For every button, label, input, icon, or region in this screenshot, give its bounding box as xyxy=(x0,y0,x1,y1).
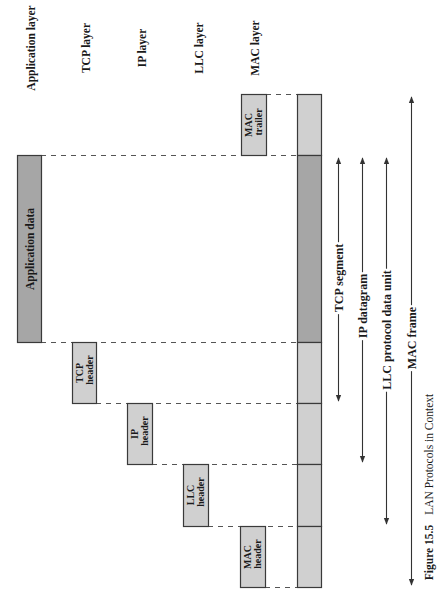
ip-layer-label: IP layer xyxy=(136,29,148,68)
tcp-layer-label: TCP layer xyxy=(80,23,92,73)
lan-protocols-diagram: Application layer TCP layer IP layer LLC… xyxy=(0,0,437,590)
figure-number: Figure 15.5 xyxy=(423,525,435,580)
llc-layer-label: LLC layer xyxy=(193,22,205,73)
mac-header-line2: header xyxy=(253,539,263,574)
mac-header-label: MAC header xyxy=(243,539,263,574)
tcp-header-label: TCP header xyxy=(75,355,95,390)
ip-header-label: IP header xyxy=(130,416,150,451)
dashed-guides xyxy=(41,95,297,588)
ip-header-line2: header xyxy=(140,416,150,451)
mac-layer-label: MAC layer xyxy=(249,20,261,75)
application-data-label: Application data xyxy=(24,208,36,290)
mac-frame-label: MAC frame xyxy=(406,305,418,371)
ip-datagram-label: IP datagram xyxy=(357,272,369,340)
mac-trailer-label: MAC trailer xyxy=(244,108,264,141)
application-layer-label: Application layer xyxy=(25,5,37,90)
llc-pdu-label: LLC protocol data unit xyxy=(381,268,393,391)
mac-trailer-line2: trailer xyxy=(254,108,264,141)
diagram-geometry xyxy=(0,0,437,590)
llc-header-label: LLC header xyxy=(186,477,206,512)
tcp-header-line2: header xyxy=(85,355,95,390)
mac-frame-column xyxy=(298,95,322,588)
figure-caption: Figure 15.5LAN Protocols in Context xyxy=(423,394,435,580)
figure-title: LAN Protocols in Context xyxy=(423,394,435,515)
tcp-segment-label: TCP segment xyxy=(333,242,345,314)
tcp-header-line1: TCP xyxy=(75,355,85,390)
llc-header-line2: header xyxy=(196,477,206,512)
